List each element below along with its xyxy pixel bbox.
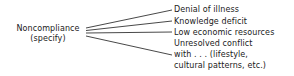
branch-unresolved-conflict-cont-2: cultural patterns, etc.) bbox=[174, 61, 266, 71]
root-node: Noncompliance (specify) bbox=[10, 24, 86, 44]
branch-unresolved-conflict-cont-1: with . . . (lifestyle, bbox=[174, 50, 248, 60]
branch-low-economic-resources: Low economic resources bbox=[174, 28, 274, 38]
root-sublabel: (specify) bbox=[10, 34, 86, 44]
branch-knowledge-deficit: Knowledge deficit bbox=[174, 17, 247, 27]
connector-conflict bbox=[86, 36, 172, 55]
diagram-canvas: Noncompliance (specify) Denial of illnes… bbox=[0, 0, 294, 76]
branch-unresolved-conflict: Unresolved conflict bbox=[174, 39, 253, 49]
connector-economic bbox=[86, 32, 172, 33]
branch-denial-of-illness: Denial of illness bbox=[174, 5, 239, 15]
root-label: Noncompliance bbox=[10, 24, 86, 34]
